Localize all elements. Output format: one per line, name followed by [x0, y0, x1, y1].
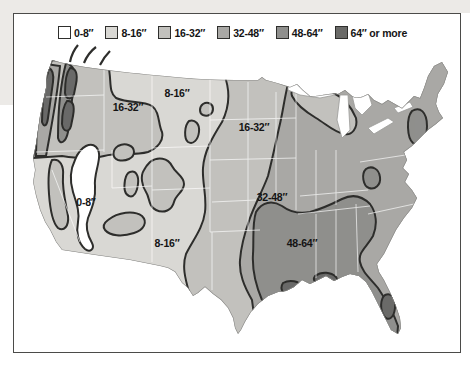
- us-precipitation-map: [0, 0, 470, 365]
- legend-swatch-48-64: [276, 26, 289, 39]
- map-label-southwest: 8-16″: [154, 237, 179, 249]
- legend-label: 0-8″: [74, 27, 93, 39]
- zone-16-32-utah: [124, 172, 138, 197]
- map-label-midwest: 32-48″: [257, 191, 288, 203]
- map-label-plains: 16-32″: [239, 121, 270, 133]
- precipitation-map-page: 0-8″ 8-16″ 16-32″ 32-48″ 48-64″ 64″ or m…: [0, 0, 470, 365]
- legend-item-8-16: 8-16″: [105, 26, 146, 39]
- legend-item-0-8: 0-8″: [58, 26, 93, 39]
- zone-64-louisiana-west: [282, 281, 304, 297]
- legend-label: 16-32″: [174, 27, 205, 39]
- legend-item-16-32: 16-32″: [158, 26, 205, 39]
- legend-label: 8-16″: [121, 27, 146, 39]
- legend-swatch-8-16: [105, 26, 118, 39]
- zone-48-64-new-england-oval: [408, 109, 427, 144]
- zone-48-64-appalachia-oval: [363, 167, 380, 188]
- legend-swatch-32-48: [217, 26, 230, 39]
- zone-16-32-black-hills: [185, 121, 199, 143]
- legend-label: 48-64″: [292, 27, 323, 39]
- map-label-montana: 8-16″: [164, 87, 189, 99]
- zone-64-florida-oval: [381, 294, 395, 319]
- contour-overshoot-marks: [70, 45, 110, 65]
- map-label-south: 48-64″: [287, 237, 318, 249]
- legend-swatch-64-plus: [335, 26, 348, 39]
- legend-item-32-48: 32-48″: [217, 26, 264, 39]
- legend-label: 32-48″: [233, 27, 264, 39]
- zone-64-mississippi-delta: [314, 273, 338, 288]
- legend-label: 64″ or more: [351, 27, 408, 39]
- map-label-idaho: 16-32″: [113, 101, 144, 113]
- legend-item-64-plus: 64″ or more: [335, 26, 408, 39]
- legend-swatch-0-8: [58, 26, 71, 39]
- delta-claw-contours: [291, 282, 352, 307]
- zone-16-32-montana-spot: [200, 103, 213, 116]
- map-label-great-basin: 0-8″: [76, 196, 95, 208]
- zone-16-32-wyoming: [114, 144, 135, 160]
- legend-item-48-64: 48-64″: [276, 26, 323, 39]
- zone-64-cascade-north: [65, 68, 77, 98]
- legend-swatch-16-32: [158, 26, 171, 39]
- precipitation-legend: 0-8″ 8-16″ 16-32″ 32-48″ 48-64″ 64″ or m…: [58, 26, 462, 39]
